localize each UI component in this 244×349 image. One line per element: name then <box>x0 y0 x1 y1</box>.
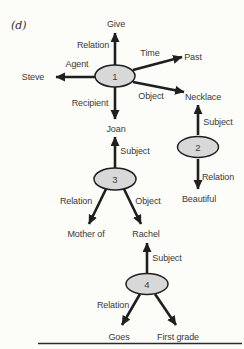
concept-beautiful: Beautiful <box>182 194 216 204</box>
concept-rachel: Rachel <box>132 229 160 239</box>
edge-label-3-object: Object <box>135 196 161 206</box>
edge-label-3-relation: Relation <box>60 196 92 206</box>
edge-label-4-relation: Relation <box>97 300 129 310</box>
edge-label-2-subject: Subject <box>203 117 233 127</box>
arrow-3-rachel <box>124 189 141 224</box>
edge-label-4-subject: Subject <box>152 253 182 263</box>
edge-label-1-object: Object <box>138 91 164 101</box>
concept-first-grade: First grade <box>157 332 199 342</box>
node-1-number: 1 <box>112 71 117 82</box>
edge-label-1-agent: Agent <box>65 59 89 69</box>
concept-give: Give <box>107 19 125 29</box>
arrow-3-mother-of <box>89 189 106 224</box>
edge-label-1-time: Time <box>140 48 159 58</box>
concept-steve: Steve <box>22 72 45 82</box>
diagram-canvas: (d) 1 2 3 4 Give Past Steve Necklace <box>0 0 244 349</box>
concept-past: Past <box>184 52 202 62</box>
concept-mother-of: Mother of <box>67 229 105 239</box>
arrow-1-past <box>133 57 182 70</box>
edge-label-2-relation: Relation <box>202 172 234 182</box>
concept-joan: Joan <box>106 124 125 134</box>
semantic-network-figure: (d) 1 2 3 4 Give Past Steve Necklace <box>0 0 244 349</box>
node-2-number: 2 <box>195 142 200 153</box>
panel-label: (d) <box>11 19 27 32</box>
concept-goes: Goes <box>108 332 130 342</box>
node-4-number: 4 <box>144 279 149 290</box>
node-3-number: 3 <box>112 174 117 185</box>
edge-label-3-subject: Subject <box>120 146 150 156</box>
arrow-4-first-grade <box>155 294 176 325</box>
edge-label-1-relation: Relation <box>77 40 109 50</box>
edge-label-1-recipient: Recipient <box>72 98 109 108</box>
concept-necklace: Necklace <box>185 92 221 102</box>
